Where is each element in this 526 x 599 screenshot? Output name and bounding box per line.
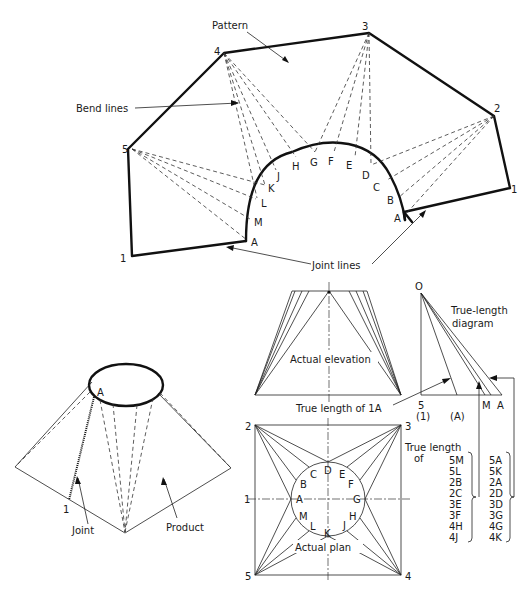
bend-lines-from-5 xyxy=(132,149,265,240)
svg-text:5A: 5A xyxy=(489,455,502,466)
svg-text:4H: 4H xyxy=(449,521,463,532)
product-view: A 1 Joint Product xyxy=(15,364,231,536)
plan-point-a: A xyxy=(296,494,303,505)
product-top-ellipse xyxy=(89,364,163,406)
arc-label-l: L xyxy=(261,198,267,209)
base-label-5: 5 xyxy=(418,400,424,411)
arc-label-f: F xyxy=(328,156,334,167)
svg-text:2B: 2B xyxy=(449,477,462,488)
plan-corner-5: 5 xyxy=(245,571,251,582)
elevation-label: Actual elevation xyxy=(290,354,371,365)
arc-label-j: J xyxy=(276,171,280,182)
svg-text:3E: 3E xyxy=(449,499,462,510)
svg-text:2C: 2C xyxy=(449,488,462,499)
arc-label-g: G xyxy=(310,157,318,168)
bend-lines-from-4 xyxy=(224,53,315,198)
true-length-table: True length of 5M 5L 2B 2C 3E 3F 4H 4J 5… xyxy=(404,442,514,543)
pattern-corner-1-right: 1 xyxy=(511,184,517,195)
plan-point-h: H xyxy=(349,511,357,522)
arc-label-a-right: A xyxy=(394,213,401,224)
svg-text:3G: 3G xyxy=(489,510,503,521)
arc-label-b: B xyxy=(387,195,394,206)
plan-label: Actual plan xyxy=(295,542,351,553)
pattern-corner-1-left: 1 xyxy=(120,253,126,264)
joint-arrowhead-left-icon xyxy=(226,245,234,251)
group-a-list: 5A 5K 2A 2D 3D 3G 4G 4K xyxy=(489,455,503,543)
joint-lines-label: Joint lines xyxy=(311,260,361,271)
arc-label-k: K xyxy=(268,183,275,194)
product-point-a: A xyxy=(97,387,104,398)
group-m-list: 5M 5L 2B 2C 3E 3F 4H 4J xyxy=(449,455,464,543)
arc-label-d: D xyxy=(362,170,370,181)
base-label-a: A xyxy=(497,400,504,411)
true-length-title-1: True-length xyxy=(450,305,508,316)
pattern-arrow xyxy=(247,32,288,62)
product-joint-seam xyxy=(69,397,94,500)
plan-point-m: M xyxy=(299,511,308,522)
joint-lines-arrow-left xyxy=(228,247,311,264)
product-label: Product xyxy=(166,522,204,533)
svg-text:4J: 4J xyxy=(449,532,458,543)
svg-text:5M: 5M xyxy=(449,455,464,466)
base-label-a-paren: (A) xyxy=(450,411,465,422)
arc-label-m: M xyxy=(254,217,263,228)
joint-line-right xyxy=(404,212,405,220)
pattern-development: 1 5 4 3 2 1 A M L K J H G F E D C B A Pa… xyxy=(76,20,517,271)
bend-lines-arrow xyxy=(135,103,238,108)
plan-view: Actual plan 2 3 1 5 4 A B C D E F G H J … xyxy=(244,418,411,582)
bracket-a xyxy=(506,452,514,542)
table-heading-2: of xyxy=(414,453,424,464)
plan-point-e: E xyxy=(339,469,345,480)
bend-lines-label: Bend lines xyxy=(76,103,128,114)
arc-label-c: C xyxy=(373,182,380,193)
svg-text:3D: 3D xyxy=(489,499,503,510)
base-label-1: (1) xyxy=(416,411,430,422)
svg-text:4K: 4K xyxy=(489,532,502,543)
origin-label-o: O xyxy=(415,281,423,292)
plan-point-k: K xyxy=(324,528,331,539)
plan-point-d: D xyxy=(324,465,332,476)
true-length-1a-label: True length of 1A xyxy=(295,403,382,414)
plan-point-b: B xyxy=(300,479,307,490)
true-length-arrowhead-icon xyxy=(442,378,451,384)
svg-text:5L: 5L xyxy=(449,466,461,477)
table-heading-1: True length xyxy=(404,442,461,453)
pattern-corner-3: 3 xyxy=(362,21,368,32)
plan-point-f: F xyxy=(348,479,354,490)
elevation-view: Actual elevation True length of 1A xyxy=(255,282,451,414)
bend-lines-from-3 xyxy=(315,33,371,165)
pattern-label: Pattern xyxy=(212,20,248,31)
plan-point-g: G xyxy=(353,494,361,505)
plan-point-l: L xyxy=(310,521,316,532)
elevation-outline xyxy=(255,291,401,395)
svg-text:3F: 3F xyxy=(449,510,461,521)
pattern-corner-5: 5 xyxy=(122,144,128,155)
svg-text:2D: 2D xyxy=(489,488,503,499)
product-point-1: 1 xyxy=(63,504,69,515)
pattern-arrowhead-icon xyxy=(282,56,289,63)
product-arrowhead-icon xyxy=(161,477,167,485)
bracket-m xyxy=(468,452,476,542)
plan-corner-2: 2 xyxy=(245,421,251,432)
arc-label-a-left: A xyxy=(251,237,258,248)
arc-label-e: E xyxy=(346,160,352,171)
plan-point-c: C xyxy=(310,469,317,480)
joint-arrowhead-icon xyxy=(75,476,81,484)
true-length-title-2: diagram xyxy=(452,318,494,329)
plan-point-j: J xyxy=(342,520,346,531)
svg-text:4G: 4G xyxy=(489,521,503,532)
plan-corner-1: 1 xyxy=(244,494,250,505)
joint-arrow xyxy=(78,478,88,524)
pattern-corner-2: 2 xyxy=(494,103,500,114)
sheet-metal-development-diagram: 1 5 4 3 2 1 A M L K J H G F E D C B A Pa… xyxy=(0,0,526,599)
joint-label: Joint xyxy=(71,525,94,536)
plan-corner-4: 4 xyxy=(405,571,411,582)
svg-text:2A: 2A xyxy=(489,477,502,488)
joint-arrowhead-right-icon xyxy=(419,210,426,218)
pattern-corner-4: 4 xyxy=(214,46,220,57)
svg-text:5K: 5K xyxy=(489,466,502,477)
plan-corner-3: 3 xyxy=(405,421,411,432)
arc-label-h: H xyxy=(292,161,300,172)
base-label-m: M xyxy=(482,400,491,411)
